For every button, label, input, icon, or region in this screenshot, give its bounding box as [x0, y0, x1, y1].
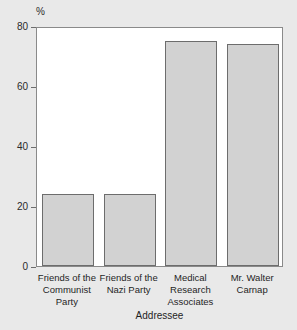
bar [227, 44, 279, 266]
x-axis-category-label: MedicalResearchAssociates [156, 272, 226, 308]
y-axis-tick-label: 80 [0, 22, 28, 32]
y-axis-tick-label: 0 [0, 262, 28, 272]
y-axis-tick-label: 40 [0, 142, 28, 152]
y-axis-tick [31, 267, 36, 268]
x-axis-category-label: Mr. WalterCarnap [217, 272, 287, 296]
x-axis-label-line: Research [156, 284, 226, 296]
x-axis-label-line: Friends of the [94, 272, 164, 284]
x-axis-label-line: Party [32, 296, 102, 308]
x-axis-label-line: Nazi Party [94, 284, 164, 296]
bar [104, 194, 156, 266]
x-axis-label-line: Medical [156, 272, 226, 284]
bar-chart: % 020406080 Friends of theCommunistParty… [0, 0, 297, 330]
x-axis-label-line: Friends of the [32, 272, 102, 284]
y-axis-unit-label: % [36, 6, 45, 18]
x-axis-label-line: Associates [156, 296, 226, 308]
x-axis-category-labels: Friends of theCommunistPartyFriends of t… [36, 272, 283, 312]
y-axis-tick [31, 87, 36, 88]
bars-layer [37, 28, 282, 266]
y-axis-tick [31, 207, 36, 208]
x-axis-category-label: Friends of theCommunistParty [32, 272, 102, 308]
bar [165, 41, 217, 266]
bar [42, 194, 94, 266]
y-axis-tick-label: 20 [0, 202, 28, 212]
plot-area [36, 27, 283, 267]
x-axis-label-line: Carnap [217, 284, 287, 296]
x-axis-title: Addressee [36, 310, 283, 322]
x-axis-category-label: Friends of theNazi Party [94, 272, 164, 296]
x-axis-label-line: Mr. Walter [217, 272, 287, 284]
y-axis-tick-label: 60 [0, 82, 28, 92]
x-axis-label-line: Communist [32, 284, 102, 296]
y-axis-tick [31, 147, 36, 148]
y-axis-tick [31, 27, 36, 28]
